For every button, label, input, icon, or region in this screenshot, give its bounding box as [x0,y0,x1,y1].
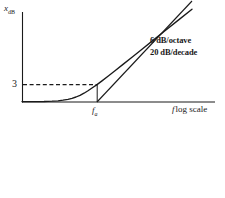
x-axis-scale-text: log scale [176,104,208,114]
y-axis-subscript: dB [8,9,15,15]
bode-plot-figure: xdB 3 fa flog scale 6 dB/octave 20 dB/de… [0,0,225,198]
slope-octave-text: 6 dB/octave [150,36,197,45]
plot-canvas [0,0,225,198]
corner-frequency-label: fa [92,106,98,117]
x-axis-label: flog scale [172,105,207,114]
slope-decade-text: 20 dB/decade [150,48,197,57]
y-axis-label: xdB [4,4,15,15]
y-tick-3-label: 3 [12,79,17,89]
slope-annotation: 6 dB/octave 20 dB/decade [150,36,197,59]
corner-frequency-subscript: a [95,111,98,117]
